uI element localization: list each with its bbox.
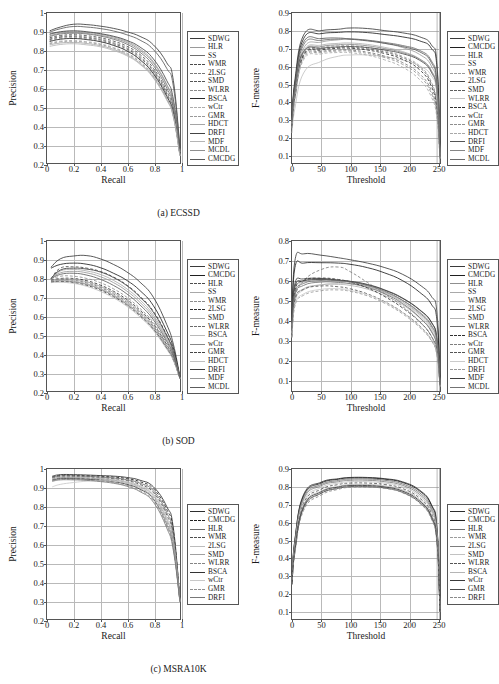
legend-label-HDCT: HDCT	[468, 129, 488, 137]
legend-item-HDCT[interactable]: HDCT	[190, 357, 235, 366]
legend-swatch-BSCA	[450, 104, 465, 111]
legend-item-2LSG[interactable]: 2LSG	[450, 542, 495, 551]
legend-msra-fm: SDWGCMCDGHLRWMR2LSGSMDWLRRBSCAwCtrGMRDRF…	[447, 504, 499, 605]
legend-item-HDCT[interactable]: HDCT	[450, 357, 495, 366]
legend-item-SMD[interactable]: SMD	[190, 314, 235, 323]
x-tick-label: 0.2	[69, 621, 80, 630]
x-tick-label: 150	[374, 393, 387, 402]
legend-item-GMR[interactable]: GMR	[450, 585, 495, 594]
legend-label-WMR: WMR	[468, 297, 487, 305]
x-tick-label: 50	[317, 165, 326, 174]
legend-swatch-SS	[450, 61, 465, 68]
legend-swatch-MCDL	[190, 147, 205, 154]
legend-item-CMCDG[interactable]: CMCDG	[450, 271, 495, 280]
curve-BSCA	[52, 479, 180, 602]
legend-item-MCDL[interactable]: MCDL	[450, 382, 495, 391]
y-tick-label: 0.8	[33, 47, 44, 56]
legend-swatch-CMCDG	[450, 271, 465, 278]
legend-swatch-SMD	[190, 78, 205, 85]
legend-label-WLRR: WLRR	[208, 323, 229, 331]
panel-caption-MSRA10K: (c) MSRA10K	[0, 664, 487, 674]
legend-swatch-SMD	[450, 314, 465, 321]
panel-caption-text: (b) SOD	[162, 436, 194, 446]
x-tick-label: 0.8	[150, 393, 161, 402]
legend-label-2LSG: 2LSG	[208, 542, 226, 550]
legend-label-BSCA: BSCA	[208, 331, 227, 339]
legend-item-CMCDG[interactable]: CMCDG	[450, 43, 495, 52]
panel-sod-fm: 0501001502002500.10.20.30.40.50.60.70.8T…	[243, 228, 486, 433]
curve-MCDL	[292, 280, 440, 385]
legend-item-DRFI[interactable]: DRFI	[190, 129, 235, 138]
legend-item-SMD[interactable]: SMD	[450, 86, 495, 95]
legend-swatch-SMD	[450, 551, 465, 558]
legend-item-DRFI[interactable]: DRFI	[190, 593, 235, 602]
y-tick-label: 0.6	[33, 85, 44, 94]
legend-item-WLRR[interactable]: WLRR	[190, 86, 235, 95]
legend-label-wCtr: wCtr	[468, 112, 483, 120]
legend-item-HLR[interactable]: HLR	[190, 43, 235, 52]
curve-SDWG	[292, 252, 440, 384]
legend-swatch-CMCDG	[190, 271, 205, 278]
y-tick-label: 0.8	[33, 503, 44, 512]
legend-label-2LSG: 2LSG	[468, 542, 486, 550]
x-tick-label: 200	[403, 621, 416, 630]
legend-label-SDWG: SDWG	[468, 263, 490, 271]
legend-item-CMCDG[interactable]: CMCDG	[190, 271, 235, 280]
curve-WMR	[292, 45, 440, 157]
y-tick-label: 0.5	[33, 560, 44, 569]
legend-item-SMD[interactable]: SMD	[450, 314, 495, 323]
legend-label-CMCDG: CMCDG	[208, 155, 235, 163]
legend-swatch-SMD	[450, 86, 465, 93]
curve-layer-msra-pr	[47, 469, 180, 619]
legend-item-HDCT[interactable]: HDCT	[450, 129, 495, 138]
legend-swatch-DRFI	[190, 594, 205, 601]
legend-label-wCtr: wCtr	[468, 576, 483, 584]
legend-item-2LSG[interactable]: 2LSG	[190, 542, 235, 551]
x-tick-label: 0.8	[150, 165, 161, 174]
x-tick-label: 1	[180, 393, 184, 402]
y-tick-label: 0.1	[278, 152, 289, 161]
legend-swatch-SMD	[190, 551, 205, 558]
y-axis-label: Precision	[8, 70, 18, 105]
curve-layer-ecssd-fm	[292, 13, 440, 163]
legend-swatch-MDF	[450, 375, 465, 382]
legend-label-wCtr: wCtr	[208, 576, 223, 584]
legend-swatch-wCtr	[450, 340, 465, 347]
legend-swatch-DRFI	[450, 366, 465, 373]
curve-wCtr	[52, 481, 180, 602]
x-axis-label: Threshold	[347, 175, 386, 185]
legend-label-HLR: HLR	[468, 280, 483, 288]
y-tick-label: 0.5	[33, 104, 44, 113]
legend-swatch-SMD	[190, 314, 205, 321]
legend-item-MCDL[interactable]: MCDL	[190, 382, 235, 391]
y-tick-label: 0.2	[278, 357, 289, 366]
legend-swatch-wCtr	[450, 577, 465, 584]
curve-CMCDG	[52, 475, 180, 600]
x-axis-label: Recall	[101, 403, 125, 413]
x-tick-label: 0	[45, 621, 49, 630]
y-tick-label: 0.9	[33, 28, 44, 37]
legend-label-SS: SS	[208, 288, 216, 296]
y-axis-label: Precision	[8, 526, 18, 561]
curve-layer-msra-fm	[292, 469, 440, 619]
legend-label-BSCA: BSCA	[468, 331, 487, 339]
legend-item-DRFI[interactable]: DRFI	[450, 593, 495, 602]
y-tick-label: 0.6	[278, 277, 289, 286]
figure-row-ECSSD: 00.20.40.60.810.20.30.40.50.60.70.80.91R…	[0, 0, 487, 228]
legend-swatch-GMR	[190, 349, 205, 356]
legend-swatch-BSCA	[450, 568, 465, 575]
curve-GMR	[292, 486, 440, 612]
legend-swatch-SDWG	[450, 35, 465, 42]
legend-item-MCDL[interactable]: MCDL	[450, 154, 495, 163]
plot-area-sod-pr: 00.20.40.60.810.20.30.40.50.60.70.80.91R…	[46, 240, 181, 392]
legend-label-WMR: WMR	[468, 533, 487, 541]
figure-row-MSRA10K: 00.20.40.60.810.20.30.40.50.60.70.80.91R…	[0, 456, 487, 684]
x-tick-label: 0.4	[96, 165, 107, 174]
legend-item-CMCDG[interactable]: CMCDG	[190, 154, 235, 163]
legend-item-GMR[interactable]: GMR	[190, 585, 235, 594]
y-tick-label: 0.4	[278, 317, 289, 326]
legend-label-HDCT: HDCT	[208, 120, 228, 128]
legend-swatch-HLR	[190, 525, 205, 532]
y-tick-label: 0.2	[278, 590, 289, 599]
